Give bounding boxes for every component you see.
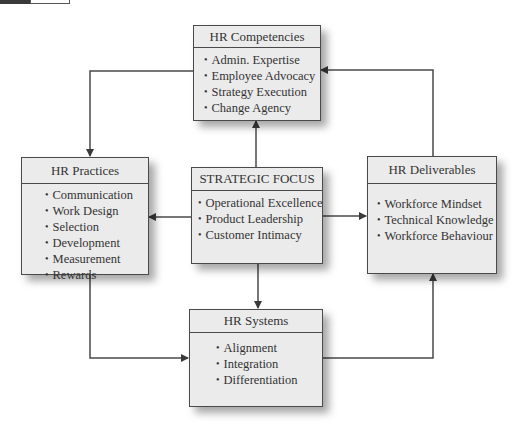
list-item: Operational Excellence — [198, 195, 322, 211]
list-item: Work Design — [45, 203, 148, 219]
hr-systems-box: HR Systems Alignment Integration Differe… — [189, 309, 323, 407]
hr-practices-list: Communication Work Design Selection Deve… — [22, 184, 148, 283]
list-item: Selection — [45, 219, 148, 235]
strategic-focus-box: STRATEGIC FOCUS Operational Excellence P… — [191, 167, 323, 264]
list-item: Technical Knowledge — [377, 212, 496, 228]
arrow-systems-to-deliverables — [322, 274, 433, 358]
arrow-deliverables-to-competencies — [321, 70, 433, 156]
arrow-practices-to-systems — [90, 274, 188, 358]
hr-systems-list: Alignment Integration Differentiation — [190, 333, 322, 388]
list-item: Differentiation — [216, 372, 322, 388]
list-item: Rewards — [45, 267, 148, 283]
hr-systems-title: HR Systems — [190, 310, 322, 333]
list-item: Customer Intimacy — [198, 227, 322, 243]
hr-deliverables-box: HR Deliverables Workforce Mindset Techni… — [367, 156, 497, 274]
list-item: Integration — [216, 356, 322, 372]
list-item: Change Agency — [204, 100, 320, 116]
list-item: Admin. Expertise — [204, 52, 320, 68]
list-item: Measurement — [45, 251, 148, 267]
hr-competencies-title: HR Competencies — [194, 26, 320, 48]
arrow-competencies-to-practices — [90, 71, 193, 156]
hr-practices-title: HR Practices — [22, 158, 148, 184]
hr-competencies-box: HR Competencies Admin. Expertise Employe… — [193, 25, 321, 121]
strategic-focus-title: STRATEGIC FOCUS — [192, 168, 322, 191]
list-item: Employee Advocacy — [204, 68, 320, 84]
hr-deliverables-title: HR Deliverables — [368, 157, 496, 184]
list-item: Communication — [45, 187, 148, 203]
list-item: Product Leadership — [198, 211, 322, 227]
list-item: Development — [45, 235, 148, 251]
hr-practices-box: HR Practices Communication Work Design S… — [21, 157, 149, 275]
list-item: Alignment — [216, 340, 322, 356]
list-item: Workforce Behaviour — [377, 228, 496, 244]
list-item: Workforce Mindset — [377, 196, 496, 212]
hr-deliverables-list: Workforce Mindset Technical Knowledge Wo… — [368, 184, 496, 244]
hr-competencies-list: Admin. Expertise Employee Advocacy Strat… — [194, 48, 320, 116]
list-item: Strategy Execution — [204, 84, 320, 100]
strategic-focus-list: Operational Excellence Product Leadershi… — [192, 191, 322, 243]
